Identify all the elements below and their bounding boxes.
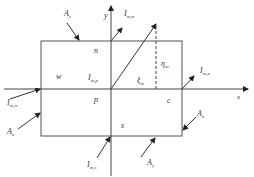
I-e-label: Im,e — [199, 66, 211, 77]
diagram-svg: y x n w p c s Im,n Im,p Im,e Im,w Im,s A… — [0, 0, 254, 177]
A-y-bottom-arrow — [141, 138, 155, 157]
cell-p-label: p — [93, 95, 98, 104]
cell-n-label: n — [94, 46, 98, 55]
x-axis-label: x — [236, 93, 241, 101]
I-n-arrow — [111, 28, 122, 41]
A-x-right-label: Ax — [196, 109, 205, 119]
control-volume-diagram: y x n w p c s Im,n Im,p Im,e Im,w Im,s A… — [0, 0, 254, 177]
I-s-arrow — [97, 137, 110, 158]
A-x-left-label: Ax — [6, 127, 15, 137]
A-y-top-label: Ay — [63, 9, 72, 19]
I-e-arrow — [182, 76, 194, 89]
A-x-right-arrow — [183, 117, 196, 130]
I-n-label: Im,n — [123, 9, 135, 20]
A-y-top-arrow — [67, 23, 79, 40]
I-s-label: Im,s — [86, 160, 97, 171]
I-w-label: Im,w — [6, 98, 19, 109]
eta-label: ηm — [161, 59, 169, 69]
cell-w-label: w — [56, 72, 62, 81]
A-y-bottom-label: Ay — [146, 158, 155, 168]
I-w-arrow — [10, 89, 40, 99]
cell-s-label: s — [121, 121, 124, 130]
xi-label: ξm — [137, 76, 144, 86]
I-p-label: Im,p — [87, 73, 99, 84]
cell-c-label: c — [167, 96, 171, 105]
y-axis-label: y — [103, 11, 108, 20]
A-x-left-arrow — [18, 113, 40, 129]
